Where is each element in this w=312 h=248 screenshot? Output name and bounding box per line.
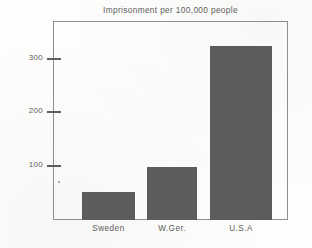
bar-sweden <box>82 192 135 220</box>
bar-u-s-a <box>210 46 272 220</box>
bar-w-ger <box>147 167 197 220</box>
category-label-u-s-a: U.S.A <box>210 224 272 233</box>
scan-speck-artifact <box>58 181 60 183</box>
bar-chart-figure: Imprisonment per 100,000 people 10020030… <box>0 0 312 248</box>
y-tick-label-200: 200 <box>13 106 43 115</box>
category-label-w-ger: W.Ger. <box>147 224 197 233</box>
chart-title: Imprisonment per 100,000 people <box>53 5 288 15</box>
y-tick-label-300: 300 <box>13 53 43 62</box>
category-label-sweden: Sweden <box>82 224 135 233</box>
y-tick-label-100: 100 <box>13 160 43 169</box>
bars-layer <box>53 21 288 220</box>
